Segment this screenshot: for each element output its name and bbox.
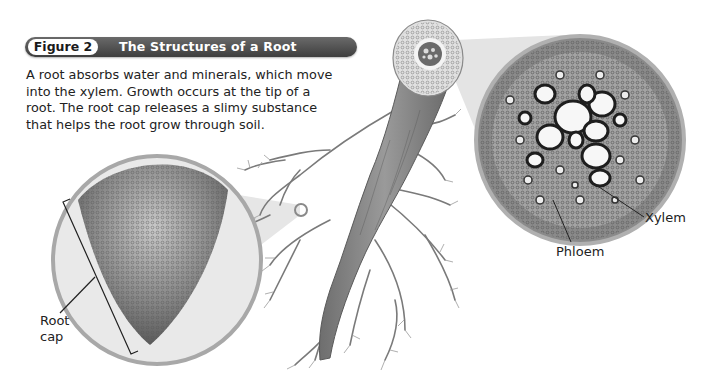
caption-line: that helps the root grow through soil.: [26, 117, 346, 134]
figure-caption: A root absorbs water and minerals, which…: [26, 67, 346, 133]
figure-number: Figure 2: [28, 39, 98, 55]
root-cross-section-top: [393, 20, 463, 96]
root-cap-label-line2: cap: [40, 329, 69, 345]
phloem-label: Phloem: [556, 244, 604, 259]
caption-line: root. The root cap releases a slimy subs…: [26, 100, 346, 117]
root-tip-magnifier: [53, 156, 261, 364]
caption-line: into the xylem. Growth occurs at the tip…: [26, 84, 346, 101]
root-cap-label: Root cap: [40, 313, 69, 345]
root-cap-label-line1: Root: [40, 313, 69, 329]
figure-header: Figure 2 The Structures of a Root: [25, 37, 357, 57]
caption-line: A root absorbs water and minerals, which…: [26, 67, 346, 84]
figure-title: The Structures of a Root: [119, 37, 297, 57]
xylem-label: Xylem: [645, 210, 686, 225]
